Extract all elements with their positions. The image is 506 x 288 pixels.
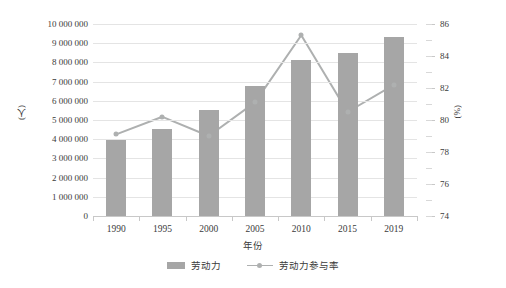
y-axis-right-minor-tick [426, 120, 432, 121]
y-axis-right-minor-tick [426, 40, 432, 41]
y-axis-right-minor-tick [426, 136, 432, 137]
legend-item-bar[interactable]: 劳动力 [167, 258, 221, 272]
bar[interactable] [291, 60, 311, 216]
gridline [93, 24, 417, 25]
y-axis-left-tick-label: 9 000 000 [52, 38, 88, 48]
x-axis-tick [139, 216, 140, 221]
x-axis-tick-label: 1990 [107, 224, 126, 234]
bar[interactable] [384, 37, 404, 216]
y-axis-right-minor-tick [426, 104, 432, 105]
y-axis-right-minor-tick [426, 200, 432, 201]
line-marker[interactable] [206, 134, 211, 139]
chart-legend: 劳动力 劳动力参与率 [0, 258, 506, 272]
y-axis-right-tick-label: 82 [440, 83, 449, 93]
x-axis-tick [371, 216, 372, 221]
x-axis-line [93, 216, 417, 217]
y-axis-left-tick-label: 3 000 000 [52, 153, 88, 163]
line-marker[interactable] [391, 82, 396, 87]
y-axis-left-tick-label: 2 000 000 [52, 173, 88, 183]
y-axis-left-tick-label: 7 000 000 [52, 77, 88, 87]
y-axis-right-tick-label: 86 [440, 19, 449, 29]
x-axis-tick-label: 2019 [384, 224, 403, 234]
y-axis-left: 01 000 0002 000 0003 000 0004 000 0005 0… [0, 24, 88, 216]
y-axis-right-tick-label: 80 [440, 115, 449, 125]
chart-container: (人) (%) 01 000 0002 000 0003 000 0004 00… [0, 0, 506, 288]
bar[interactable] [338, 53, 358, 216]
y-axis-right-minor-tick [426, 184, 432, 185]
gridline [93, 43, 417, 44]
y-axis-left-tick-label: 10 000 000 [48, 19, 89, 29]
y-axis-right-minor-tick [426, 168, 432, 169]
x-axis-tick-label: 2000 [199, 224, 218, 234]
plot-area [93, 24, 417, 216]
x-axis-title: 年份 [0, 238, 506, 252]
legend-label-line: 劳动力参与率 [279, 258, 339, 272]
y-axis-right-minor-tick [426, 216, 432, 217]
legend-label-bar: 劳动力 [191, 258, 221, 272]
y-axis-right-minor-tick [426, 72, 432, 73]
y-axis-right: 74767880828486 [426, 24, 466, 216]
x-axis-tick [232, 216, 233, 221]
x-axis-tick [186, 216, 187, 221]
x-axis-tick-label: 1995 [153, 224, 172, 234]
gridline [93, 82, 417, 83]
x-axis-tick-label: 2005 [246, 224, 265, 234]
y-axis-left-tick-label: 1 000 000 [52, 192, 88, 202]
y-axis-right-minor-tick [426, 24, 432, 25]
line-marker[interactable] [253, 100, 258, 105]
legend-line-swatch-icon [247, 262, 273, 269]
y-axis-right-minor-tick [426, 88, 432, 89]
y-axis-right-minor-tick [426, 152, 432, 153]
y-axis-right-tick-label: 78 [440, 147, 449, 157]
legend-item-line[interactable]: 劳动力参与率 [247, 258, 339, 272]
x-axis-tick [324, 216, 325, 221]
x-axis-tick [93, 216, 94, 221]
y-axis-left-tick-label: 8 000 000 [52, 57, 88, 67]
bar[interactable] [199, 110, 219, 216]
y-axis-left-tick-label: 6 000 000 [52, 96, 88, 106]
x-axis-tick-label: 2015 [338, 224, 357, 234]
y-axis-right-minor-tick [426, 56, 432, 57]
bar[interactable] [106, 140, 126, 216]
y-axis-left-tick-label: 5 000 000 [52, 115, 88, 125]
line-marker[interactable] [345, 110, 350, 115]
bar[interactable] [245, 86, 265, 216]
legend-bar-swatch-icon [167, 262, 185, 269]
line-marker[interactable] [114, 132, 119, 137]
x-axis-tick [278, 216, 279, 221]
y-axis-right-tick-label: 74 [440, 211, 449, 221]
gridline [93, 62, 417, 63]
x-axis-tick-label: 2010 [292, 224, 311, 234]
line-marker[interactable] [160, 114, 165, 119]
y-axis-left-tick-label: 4 000 000 [52, 134, 88, 144]
y-axis-right-tick-label: 76 [440, 179, 449, 189]
y-axis-left-tick-label: 0 [84, 211, 89, 221]
line-marker[interactable] [299, 33, 304, 38]
bar[interactable] [152, 129, 172, 216]
x-axis-tick [417, 216, 418, 221]
y-axis-right-tick-label: 84 [440, 51, 449, 61]
